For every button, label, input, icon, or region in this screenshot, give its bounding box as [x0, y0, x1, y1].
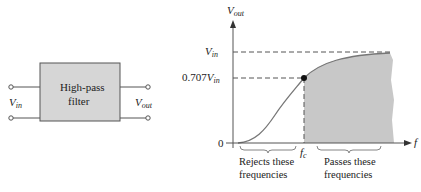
output-voltage-label: Vout — [135, 97, 152, 110]
reject-label-line1: Rejects these — [239, 157, 294, 168]
output-terminal-top — [146, 85, 150, 89]
reject-brace — [240, 146, 296, 153]
pass-region — [304, 53, 394, 143]
input-terminal-top — [9, 85, 13, 89]
filter-label-line2: filter — [68, 96, 89, 107]
x-tick-fc: fc — [300, 147, 307, 160]
cutoff-point — [301, 75, 307, 81]
reject-label-line2: frequencies — [239, 170, 287, 181]
y-tick-zero: 0 — [218, 138, 224, 149]
pass-brace — [317, 146, 381, 153]
y-axis-label: Vout — [227, 5, 244, 18]
pass-label-line1: Passes these — [324, 157, 376, 168]
pass-label-line2: frequencies — [324, 170, 372, 181]
output-terminal-bottom — [146, 116, 150, 120]
input-voltage-label: Vin — [9, 97, 22, 110]
y-tick-0707vin: 0.707Vin — [182, 72, 220, 85]
x-axis-label: f — [414, 137, 417, 148]
y-tick-vin: Vin — [205, 46, 218, 59]
input-terminal-bottom — [9, 116, 13, 120]
filter-label-line1: High-pass — [60, 82, 105, 93]
